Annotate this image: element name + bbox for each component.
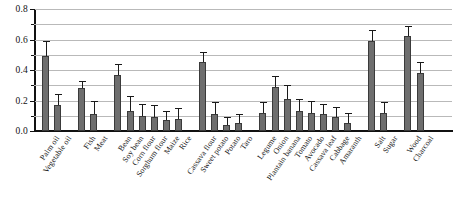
bar [284, 99, 291, 131]
error-bar-cap [79, 81, 86, 82]
bar [211, 114, 218, 131]
bar [332, 117, 339, 131]
error-bar-cap [417, 62, 424, 63]
error-bar [142, 104, 143, 116]
error-bar [420, 62, 421, 73]
error-bar [287, 85, 288, 99]
gridline [34, 85, 452, 86]
x-axis-label: Taro [238, 134, 254, 151]
error-bar-cap [320, 104, 327, 105]
error-bar-cap [308, 101, 315, 102]
bar [42, 56, 49, 131]
y-tick-mark [30, 131, 35, 132]
gridline [34, 9, 452, 10]
error-bar [348, 113, 349, 124]
error-bar-cap [139, 104, 146, 105]
error-bar [311, 101, 312, 113]
gridline [34, 24, 452, 25]
y-tick-label: 0.4 [16, 65, 28, 75]
bar [139, 116, 146, 131]
y-tick-label: 0.0 [16, 126, 28, 136]
bar [404, 36, 411, 131]
error-bar [166, 111, 167, 120]
error-bar [227, 117, 228, 125]
error-bar-cap [260, 102, 267, 103]
bar [417, 73, 424, 131]
error-bar [154, 105, 155, 117]
bar [235, 123, 242, 131]
error-bar [82, 81, 83, 89]
gridline [34, 70, 452, 71]
error-bar [239, 114, 240, 123]
y-tick-label: 0.8 [16, 4, 28, 14]
y-tick-mark-minor [31, 85, 34, 86]
error-bar-cap [43, 41, 50, 42]
error-bar [299, 99, 300, 111]
bar [259, 113, 266, 131]
bar [308, 113, 315, 131]
error-bar-cap [115, 64, 122, 65]
error-bar-cap [284, 85, 291, 86]
bar [163, 120, 170, 131]
y-tick-mark-minor [31, 116, 34, 117]
error-bar-cap [91, 101, 98, 102]
y-tick-label: 0.2 [16, 96, 28, 106]
bar [296, 111, 303, 131]
error-bar-cap [224, 117, 231, 118]
error-bar-cap [163, 111, 170, 112]
error-bar-cap [345, 113, 352, 114]
bar [151, 117, 158, 131]
bar [272, 87, 279, 131]
gridline [34, 55, 452, 56]
bar [90, 114, 97, 131]
bar [127, 111, 134, 131]
bar [54, 105, 61, 131]
error-bar [203, 52, 204, 63]
error-bar [215, 102, 216, 114]
error-bar [323, 104, 324, 115]
error-bar-cap [381, 102, 388, 103]
error-bar-cap [333, 107, 340, 108]
error-bar-cap [151, 105, 158, 106]
y-tick-mark [30, 9, 35, 10]
y-tick-label: 0.6 [16, 35, 28, 45]
x-axis-label: Rice [178, 134, 194, 152]
error-bar-cap [175, 108, 182, 109]
error-bar [336, 107, 337, 118]
y-tick-mark-minor [31, 24, 34, 25]
error-bar [58, 94, 59, 105]
error-bar-cap [296, 99, 303, 100]
error-bar-cap [127, 96, 134, 97]
error-bar [118, 64, 119, 75]
gridline [34, 40, 452, 41]
error-bar [178, 108, 179, 119]
bar-chart: 0.00.20.40.60.8 Palm oilVegetable oilFis… [0, 0, 460, 199]
error-bar [408, 26, 409, 37]
error-bar-cap [55, 94, 62, 95]
y-tick-mark [30, 40, 35, 41]
plot-area: 0.00.20.40.60.8 [34, 9, 452, 131]
y-tick-mark-minor [31, 55, 34, 56]
error-bar-cap [272, 76, 279, 77]
error-bar-cap [405, 26, 412, 27]
error-bar-cap [236, 114, 243, 115]
error-bar [130, 96, 131, 111]
bar [380, 113, 387, 131]
bar [199, 62, 206, 131]
error-bar [384, 102, 385, 113]
bar [320, 114, 327, 131]
error-bar [275, 76, 276, 87]
error-bar-cap [212, 102, 219, 103]
error-bar [46, 41, 47, 56]
bar [114, 75, 121, 131]
y-tick-mark [30, 70, 35, 71]
error-bar [94, 101, 95, 115]
error-bar-cap [369, 30, 376, 31]
bar [368, 41, 375, 131]
bar [78, 88, 85, 131]
error-bar-cap [200, 52, 207, 53]
error-bar [263, 102, 264, 113]
bar [344, 123, 351, 131]
y-tick-mark [30, 101, 35, 102]
bar [223, 125, 230, 131]
